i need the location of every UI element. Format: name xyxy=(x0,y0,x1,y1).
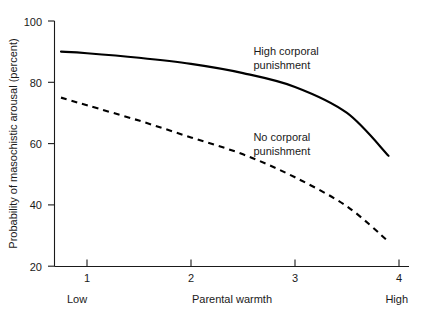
x-tick-label-4: 4 xyxy=(396,272,402,284)
y-tick-label-60: 60 xyxy=(30,138,42,150)
x-tick-label-2: 2 xyxy=(188,272,194,284)
no-corporal-punishment-label-line1: No corporal xyxy=(253,131,310,143)
y-tick-label-100: 100 xyxy=(24,16,42,28)
series-line-no-corporal-punishment xyxy=(61,98,389,242)
y-tick-label-80: 80 xyxy=(30,77,42,89)
chart-svg: 100 80 60 40 20 1 2 3 4 Low Parental war… xyxy=(0,0,430,321)
y-axis-title: Probability of masochistic arousal (perc… xyxy=(7,38,19,248)
y-tick-label-20: 20 xyxy=(30,261,42,273)
y-tick-label-40: 40 xyxy=(30,199,42,211)
x-tick-label-3: 3 xyxy=(292,272,298,284)
x-axis-low-label: Low xyxy=(67,293,87,305)
high-corporal-punishment-label-line1: High corporal xyxy=(253,45,318,57)
high-corporal-punishment-label-line2: punishment xyxy=(253,59,310,71)
no-corporal-punishment-label-line2: punishment xyxy=(253,145,310,157)
chart-figure: 100 80 60 40 20 1 2 3 4 Low Parental war… xyxy=(0,0,430,321)
x-axis-high-label: High xyxy=(385,293,408,305)
series-line-high-corporal-punishment xyxy=(61,52,389,156)
x-axis-title: Parental warmth xyxy=(192,293,272,305)
x-tick-label-1: 1 xyxy=(84,272,90,284)
